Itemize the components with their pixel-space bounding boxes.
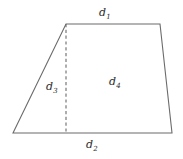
label-d1-subscript: 1 bbox=[106, 13, 110, 21]
geometry-figure: d1 d3 d4 d2 bbox=[0, 0, 183, 159]
label-d2-base: d bbox=[86, 138, 93, 151]
label-d4-base: d bbox=[109, 75, 116, 88]
label-d2-subscript: 2 bbox=[93, 145, 97, 153]
label-d1: d1 bbox=[99, 7, 111, 18]
trapezoid-drawing bbox=[0, 0, 183, 159]
label-d4-subscript: 4 bbox=[116, 82, 120, 90]
label-d3-subscript: 3 bbox=[53, 87, 57, 95]
label-d3: d3 bbox=[46, 81, 58, 92]
label-d2: d2 bbox=[86, 139, 98, 150]
label-d4: d4 bbox=[109, 76, 121, 87]
trapezoid-outline bbox=[13, 24, 172, 133]
label-d1-base: d bbox=[99, 6, 106, 19]
label-d3-base: d bbox=[46, 80, 53, 93]
